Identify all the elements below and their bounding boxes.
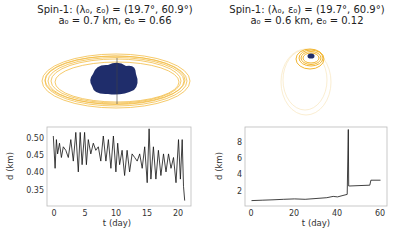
- svg-text:40: 40: [332, 209, 342, 218]
- left-orbit-illustration: [42, 54, 190, 108]
- svg-text:10: 10: [111, 209, 121, 218]
- svg-text:2: 2: [237, 187, 242, 196]
- left-y-ticks: 0.50 0.45 0.40 0.35: [26, 134, 44, 195]
- right-ylabel: d (km): [214, 152, 224, 180]
- svg-text:0.45: 0.45: [26, 151, 44, 160]
- right-x-ticks: 0 20 40 60: [248, 209, 385, 218]
- left-xlabel: t (day): [103, 218, 131, 228]
- svg-text:60: 60: [375, 209, 385, 218]
- svg-text:4: 4: [237, 170, 242, 179]
- asteroid-body: [90, 63, 137, 95]
- left-series-line: [53, 129, 184, 201]
- right-chart: 0 20 40 60 8 6 4 2 t (day) d (km): [214, 127, 387, 228]
- right-axes-frame: [245, 127, 387, 206]
- svg-text:8: 8: [237, 138, 242, 147]
- svg-text:0: 0: [51, 209, 56, 218]
- right-xlabel: t (day): [302, 218, 330, 228]
- left-axes-frame: [47, 127, 191, 206]
- svg-text:0.40: 0.40: [26, 168, 44, 177]
- left-chart: 0 5 10 15 20 0.50 0.45 0.40 0.35 t (day)…: [5, 127, 191, 228]
- svg-text:0.35: 0.35: [26, 186, 44, 195]
- svg-text:20: 20: [289, 209, 299, 218]
- left-ylabel: d (km): [5, 152, 15, 180]
- right-series-line: [252, 130, 381, 201]
- figure-canvas: 0 5 10 15 20 0.50 0.45 0.40 0.35 t (day)…: [0, 0, 405, 241]
- svg-text:0: 0: [248, 209, 253, 218]
- left-x-ticks: 0 5 10 15 20: [51, 209, 183, 218]
- asteroid-body-small: [308, 53, 315, 58]
- svg-text:0.50: 0.50: [26, 134, 44, 143]
- svg-text:15: 15: [142, 209, 152, 218]
- right-orbit-illustration: [281, 49, 331, 115]
- svg-text:5: 5: [82, 209, 87, 218]
- svg-text:6: 6: [237, 154, 242, 163]
- svg-text:20: 20: [173, 209, 183, 218]
- right-y-ticks: 8 6 4 2: [237, 138, 242, 196]
